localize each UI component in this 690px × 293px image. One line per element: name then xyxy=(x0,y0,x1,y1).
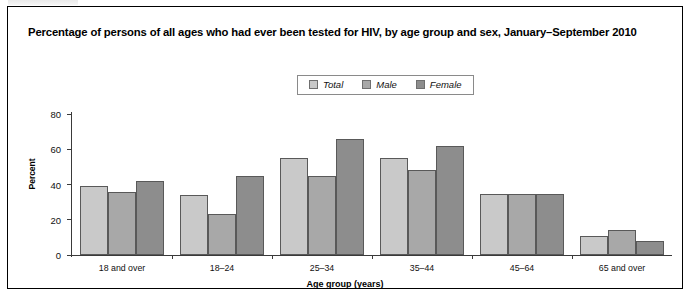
x-axis-tickmark-4 xyxy=(472,255,473,259)
legend-item-male: Male xyxy=(362,80,397,90)
legend-swatch-total xyxy=(309,80,318,89)
bar-total-0 xyxy=(80,186,108,255)
plot-area xyxy=(72,114,672,255)
bar-total-3 xyxy=(380,158,408,255)
scan-artifact-sliver xyxy=(8,0,78,5)
bar-total-2 xyxy=(280,158,308,255)
bar-group-3 xyxy=(372,114,472,255)
bar-group-5 xyxy=(572,114,672,255)
bar-group-2 xyxy=(272,114,372,255)
x-axis-category-label-5: 65 and over xyxy=(599,263,645,273)
legend-swatch-female xyxy=(416,80,425,89)
legend-label-total: Total xyxy=(323,80,343,90)
legend-item-total: Total xyxy=(309,80,343,90)
figure-title: Percentage of persons of all ages who ha… xyxy=(28,26,637,38)
bar-male-0 xyxy=(108,192,136,255)
figure-container: Percentage of persons of all ages who ha… xyxy=(7,6,683,289)
y-axis-tick-0: 0 xyxy=(39,250,61,261)
bar-female-4 xyxy=(536,194,564,255)
x-axis-category-label-1: 18–24 xyxy=(210,263,234,273)
bar-male-4 xyxy=(508,194,536,255)
bar-group-1 xyxy=(172,114,272,255)
bar-male-5 xyxy=(608,230,636,255)
y-axis-label: Percent xyxy=(27,146,37,202)
x-axis-tickmark-1 xyxy=(172,255,173,259)
bar-male-1 xyxy=(208,214,236,255)
x-axis-tickmark-2 xyxy=(272,255,273,259)
y-axis-tick-60: 60 xyxy=(39,144,61,155)
bar-female-1 xyxy=(236,176,264,255)
x-axis-category-label-0: 18 and over xyxy=(99,263,145,273)
legend-label-male: Male xyxy=(376,80,397,90)
y-axis-tick-labels: 020406080 xyxy=(39,7,61,293)
bar-female-2 xyxy=(336,139,364,255)
y-axis-tick-80: 80 xyxy=(39,109,61,120)
bar-group-0 xyxy=(72,114,172,255)
chart-legend: Total Male Female xyxy=(297,75,474,95)
bar-female-0 xyxy=(136,181,164,255)
bar-total-5 xyxy=(580,236,608,255)
bar-male-2 xyxy=(308,176,336,255)
bar-female-3 xyxy=(436,146,464,255)
bar-female-5 xyxy=(636,241,664,255)
x-axis-category-label-3: 35–44 xyxy=(410,263,434,273)
bar-male-3 xyxy=(408,170,436,255)
x-axis-label: Age group (years) xyxy=(8,279,682,289)
legend-item-female: Female xyxy=(416,80,462,90)
legend-label-female: Female xyxy=(430,80,462,90)
bar-group-4 xyxy=(472,114,572,255)
x-axis-category-label-4: 45–64 xyxy=(510,263,534,273)
bar-total-4 xyxy=(480,194,508,255)
x-axis-category-label-2: 25–34 xyxy=(310,263,334,273)
bar-total-1 xyxy=(180,195,208,255)
x-axis-tickmark-5 xyxy=(572,255,573,259)
y-axis-tick-40: 40 xyxy=(39,179,61,190)
y-axis-tick-20: 20 xyxy=(39,214,61,225)
legend-swatch-male xyxy=(362,80,371,89)
x-axis-tickmark-3 xyxy=(372,255,373,259)
